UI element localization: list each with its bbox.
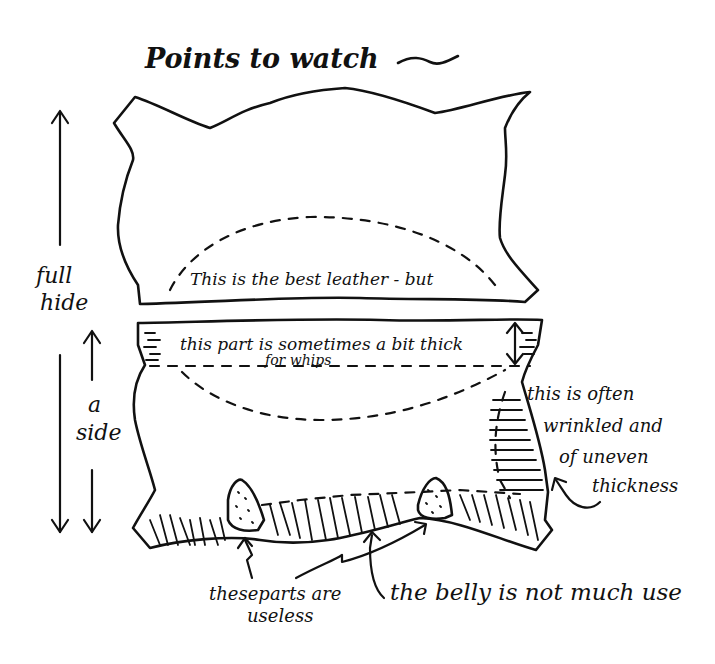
top-strip-label-line2: for whips bbox=[264, 352, 331, 368]
best-leather-label: This is the best leather - but bbox=[190, 269, 434, 289]
shoulder-note-line1: this is often bbox=[527, 383, 634, 404]
useless-part-right bbox=[418, 478, 452, 519]
full-hide-label-line1: full bbox=[34, 263, 72, 288]
side-label-line2: side bbox=[76, 420, 121, 445]
shoulder-note-line2: wrinkled and bbox=[543, 415, 663, 436]
shoulder-hatch bbox=[490, 392, 543, 498]
useless-part-left bbox=[228, 480, 264, 531]
top-strip-label-line1: this part is sometimes a bit thick bbox=[180, 334, 463, 354]
belly-label: the belly is not much use bbox=[390, 579, 682, 605]
full-hide-arrow-icon bbox=[52, 111, 68, 532]
belly-pointer: the belly is not much use bbox=[364, 532, 682, 605]
shoulder-note-line4: thickness bbox=[592, 475, 678, 496]
side-label-line1: a bbox=[88, 392, 101, 417]
useless-parts-label-line2: useless bbox=[247, 605, 313, 626]
full-hide-label-line2: hide bbox=[40, 290, 88, 315]
shoulder-note: this is often wrinkled and of uneven thi… bbox=[527, 383, 678, 508]
title-flourish-icon bbox=[398, 56, 458, 64]
useless-parts-label-line1: theseparts are bbox=[209, 583, 341, 604]
shoulder-note-line3: of uneven bbox=[559, 446, 648, 467]
belly-arrow-icon bbox=[370, 535, 384, 598]
belly-boundary bbox=[262, 490, 520, 505]
leather-hide-diagram: Points to watch This is the best leather… bbox=[0, 0, 715, 664]
side-best-boundary bbox=[182, 370, 505, 420]
title-group: Points to watch bbox=[144, 43, 458, 74]
thickness-arrow-icon bbox=[507, 323, 523, 364]
diagram-title: Points to watch bbox=[144, 43, 379, 74]
